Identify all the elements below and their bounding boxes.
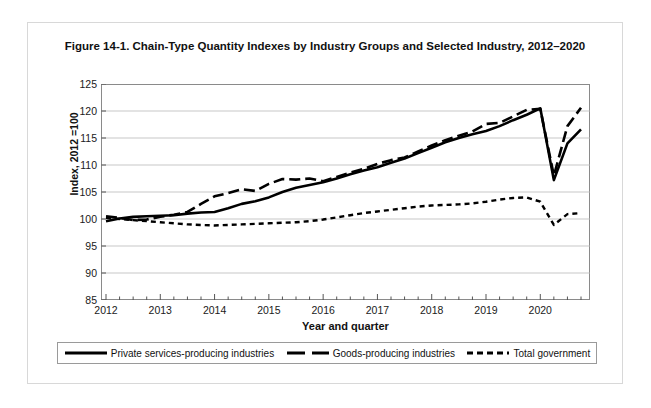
legend-item[interactable]: Goods-producing industries: [286, 348, 455, 359]
legend-item[interactable]: Private services-producing industries: [64, 348, 274, 359]
legend-swatch: [286, 348, 330, 358]
chart-svg: [101, 84, 590, 300]
series-line: [106, 108, 581, 220]
legend-label: Total government: [513, 348, 590, 359]
x-axis-tick-label: 2012: [76, 304, 136, 316]
y-axis-title: Index, 2012 =100: [68, 74, 80, 234]
legend-swatch: [64, 348, 108, 358]
x-axis-tick-label: 2016: [293, 304, 353, 316]
x-axis-tick-label: 2020: [510, 304, 570, 316]
plot-area: [101, 84, 590, 300]
x-axis-tick-label: 2013: [130, 304, 190, 316]
series-line: [106, 197, 581, 225]
legend-item[interactable]: Total government: [466, 348, 590, 359]
x-axis-tick-labels: 201220132014201520162017201820192020: [101, 304, 590, 320]
legend-label: Private services-producing industries: [111, 348, 274, 359]
x-axis-tick-label: 2014: [185, 304, 245, 316]
x-axis-tick-label: 2015: [239, 304, 299, 316]
chart-title: Figure 14-1. Chain-Type Quantity Indexes…: [55, 38, 595, 55]
y-axis-tick-label: 95: [57, 240, 97, 252]
legend-swatch: [466, 348, 510, 358]
chart-legend: Private services-producing industriesGoo…: [57, 342, 597, 364]
x-axis-tick-label: 2018: [402, 304, 462, 316]
x-axis-tick-label: 2017: [347, 304, 407, 316]
x-axis-title: Year and quarter: [101, 320, 590, 332]
x-axis-tick-label: 2019: [456, 304, 516, 316]
y-axis-tick-label: 90: [57, 267, 97, 279]
legend-label: Goods-producing industries: [333, 348, 455, 359]
